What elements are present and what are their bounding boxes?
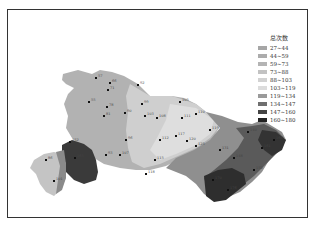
legend-label: 44~59: [270, 53, 289, 59]
legend-swatch: [258, 118, 267, 122]
legend-swatch: [258, 78, 267, 82]
station-marker: [186, 140, 188, 142]
station-label: 112: [162, 136, 169, 140]
station-marker: [233, 157, 235, 159]
legend-label: 88~103: [270, 77, 292, 83]
station-marker: [159, 139, 161, 141]
legend-label: 160~180: [270, 117, 296, 123]
station-label: 165: [77, 154, 84, 158]
station-marker: [247, 131, 249, 133]
legend-label: 103~119: [270, 85, 296, 91]
station-marker: [253, 169, 255, 171]
station-marker: [219, 149, 221, 151]
station-marker: [227, 189, 229, 191]
station-marker: [156, 117, 158, 119]
station-label: 55: [91, 98, 95, 102]
station-marker: [109, 82, 111, 84]
legend-label: 119~134: [270, 93, 296, 99]
station-label: 90: [127, 109, 131, 113]
station-marker: [103, 115, 105, 117]
station-marker: [105, 154, 107, 156]
station-marker: [74, 157, 76, 159]
station-marker: [195, 113, 197, 115]
legend-item: 27~44: [258, 44, 296, 52]
legend-item: 73~88: [258, 68, 296, 76]
station-label: 93: [108, 151, 112, 155]
station-label: 92: [140, 81, 144, 85]
station-marker: [261, 147, 263, 149]
station-marker: [154, 159, 156, 161]
legend-label: 73~88: [270, 69, 289, 75]
legend-item: 147~160: [258, 108, 296, 116]
station-marker: [179, 101, 181, 103]
legend-label: 27~44: [270, 45, 289, 51]
station-marker: [125, 139, 127, 141]
station-label: 110: [198, 110, 205, 114]
station-marker: [145, 173, 147, 175]
legend-label: 59~73: [270, 61, 289, 67]
station-label: 131: [222, 146, 229, 150]
legend-item: 119~134: [258, 92, 296, 100]
station-marker: [144, 115, 146, 117]
station-label: 103: [147, 112, 154, 116]
station-label: 105: [182, 98, 189, 102]
legend-item: 160~180: [258, 116, 296, 124]
station-label: 118: [148, 170, 155, 174]
legend-item: 134~147: [258, 100, 296, 108]
station-label: 66: [112, 79, 116, 83]
station-label: 78: [109, 103, 113, 107]
station-marker: [175, 135, 177, 137]
station-label: 125: [198, 142, 205, 146]
station-marker: [181, 117, 183, 119]
station-marker: [95, 77, 97, 79]
station-label: 120: [189, 137, 196, 141]
legend-swatch: [258, 94, 267, 98]
station-marker: [209, 129, 211, 131]
station-marker: [88, 101, 90, 103]
station-label: 107: [122, 151, 129, 155]
station-label: 86: [48, 156, 52, 160]
station-marker: [124, 112, 126, 114]
station-label: 170: [215, 176, 222, 180]
station-marker: [273, 139, 275, 141]
legend-label: 147~160: [270, 109, 296, 115]
legend-swatch: [258, 70, 267, 74]
legend: 总次数 27~4444~5959~7373~8888~103103~119119…: [258, 33, 296, 124]
legend-swatch: [258, 110, 267, 114]
station-label: 81: [106, 112, 110, 116]
station-marker: [69, 141, 71, 143]
station-label: 119: [212, 126, 219, 130]
legend-swatch: [258, 46, 267, 50]
legend-item: 103~119: [258, 84, 296, 92]
legend-swatch: [258, 86, 267, 90]
station-label: 148: [236, 154, 243, 158]
legend-item: 59~73: [258, 60, 296, 68]
station-label: 71: [110, 86, 114, 90]
station-label: 108: [159, 114, 166, 118]
station-label: 161: [264, 144, 271, 148]
station-marker: [53, 180, 55, 182]
legend-label: 134~147: [270, 101, 296, 107]
station-marker: [141, 103, 143, 105]
station-label: 101: [56, 177, 63, 181]
station-label: 117: [178, 132, 185, 136]
station-label: 176: [230, 186, 237, 190]
legend-item: 88~103: [258, 76, 296, 84]
legend-swatch: [258, 54, 267, 58]
station-marker: [119, 154, 121, 156]
station-label: 166: [276, 136, 283, 140]
legend-title: 总次数: [262, 33, 296, 42]
station-marker: [195, 145, 197, 147]
station-marker: [106, 106, 108, 108]
station-marker: [107, 89, 109, 91]
station-label: 99: [144, 100, 148, 104]
station-marker: [45, 159, 47, 161]
station-label: 111: [184, 114, 191, 118]
station-label: 152: [256, 166, 263, 170]
station-marker: [137, 84, 139, 86]
station-label: 140: [250, 128, 257, 132]
station-label: 152: [72, 138, 79, 142]
station-label: 57: [98, 74, 102, 78]
legend-swatch: [258, 62, 267, 66]
station-label: 96: [128, 136, 132, 140]
